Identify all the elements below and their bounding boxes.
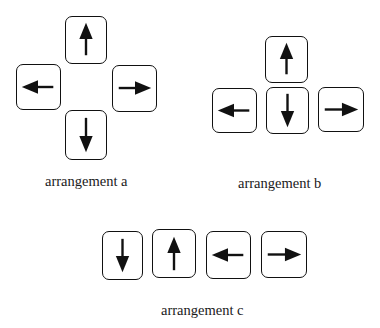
arrow-key-left [212,88,257,133]
arrow-up-icon [66,17,106,63]
arrangement-b-label: arrangement b [238,176,321,191]
arrow-key-right [261,231,307,278]
arrow-up-icon [153,230,195,277]
arrangement-c-label: arrangement c [161,303,244,318]
arrow-key-down [102,231,143,280]
arrow-down-icon [66,111,106,159]
arrangement-a-label: arrangement a [45,174,128,189]
arrow-right-icon [113,66,156,111]
arrow-down-icon [267,88,308,133]
arrow-key-up [65,16,107,64]
arrow-left-icon [207,232,250,278]
arrow-down-icon [103,232,142,279]
arrow-key-left [16,64,61,110]
arrow-key-right [112,65,157,112]
arrow-right-icon [262,232,306,277]
arrow-left-icon [17,65,60,109]
arrow-key-up [152,229,196,278]
arrow-up-icon [266,37,307,82]
arrow-key-left [206,231,251,279]
arrow-key-right [318,87,364,132]
arrow-right-icon [319,88,363,131]
arrow-left-icon [213,89,256,132]
arrow-key-up [265,36,308,83]
arrow-key-down [266,87,309,134]
arrow-key-down [65,110,107,160]
